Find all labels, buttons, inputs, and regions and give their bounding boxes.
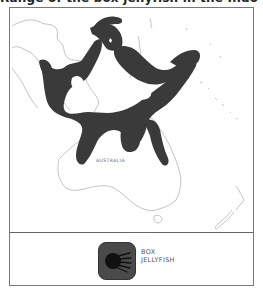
label-australia: AUSTRALIA xyxy=(96,158,125,163)
legend-label-box-jellyfish: BOX JELLYFISH xyxy=(141,248,175,264)
legend-label-line2: JELLYFISH xyxy=(141,256,175,264)
map-canvas: AUSTRALIA xyxy=(10,8,252,233)
map-title: Range of the box jellyfish in the Indo-P… xyxy=(0,0,263,5)
range-area xyxy=(39,16,200,165)
legend-label-line1: BOX xyxy=(141,248,175,256)
range-map: AUSTRALIA xyxy=(10,8,252,233)
jellyfish-icon xyxy=(98,242,136,280)
legend: BOX JELLYFISH xyxy=(10,234,253,284)
legend-divider xyxy=(10,232,253,233)
map-figure: AUSTRALIA BOX JELLYFISH xyxy=(9,7,254,286)
